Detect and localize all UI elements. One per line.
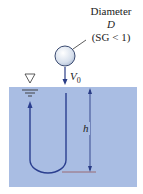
velocity-symbol: V [70, 70, 77, 82]
depth-label: h [82, 122, 90, 135]
diameter-symbol: D [88, 18, 134, 31]
diameter-label: Diameter D (SG < 1) [88, 5, 134, 44]
buoyant-sphere-diagram: Diameter D (SG < 1) V0 h [0, 0, 143, 194]
velocity-arrow-icon [63, 67, 68, 85]
diameter-leader-line [73, 40, 86, 49]
diameter-word: Diameter [88, 5, 134, 18]
velocity-label: V0 [70, 70, 81, 87]
specific-gravity-label: (SG < 1) [88, 31, 134, 44]
velocity-subscript: 0 [77, 76, 81, 85]
sphere [55, 46, 75, 66]
